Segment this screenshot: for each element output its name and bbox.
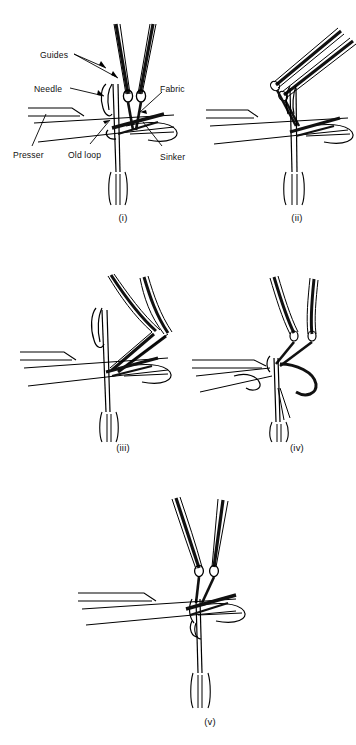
panel-iii-diagram [78,272,208,442]
panel-v-diagram [140,495,270,710]
callout-label-needle: Needle [34,84,62,94]
callout-label-sinker: Sinker [160,152,185,162]
callout-label-fabric: Fabric [160,84,185,94]
callout-label-presser: Presser [13,150,44,160]
panel-caption-iii: (iii) [103,442,143,453]
panel-caption-i: (i) [103,212,143,223]
callout-label-old-loop: Old loop [68,150,101,160]
knitting-cycle-figure: Guides Needle Fabric Presser Old loop Si… [0,0,356,745]
panel-caption-v: (v) [190,716,230,727]
panel-caption-ii: (ii) [277,212,317,223]
callout-label-guides: Guides [40,50,68,60]
panel-caption-iv: (iv) [277,442,317,453]
panel-iv-diagram [218,272,348,442]
